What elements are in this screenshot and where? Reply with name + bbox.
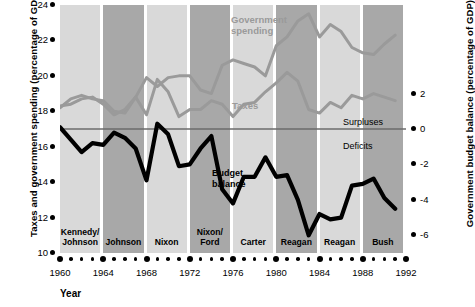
annotation-budget-balance: Budget balance — [212, 168, 246, 190]
x-tick-dot-1968 — [144, 256, 150, 262]
right-tick-neg4: -4 — [420, 194, 428, 205]
x-tick-dot-1977 — [242, 257, 246, 261]
x-tick-dot-1966 — [123, 257, 127, 261]
x-tick-dot-1972 — [187, 256, 193, 262]
left-tick-16: 16 — [22, 141, 48, 152]
x-tick-dot-1981 — [285, 257, 289, 261]
x-tick-dot-1985 — [329, 257, 333, 261]
right-tick-2: 2 — [420, 88, 425, 99]
x-tick-label-1976: 1976 — [216, 267, 250, 278]
x-tick-dot-1986 — [339, 257, 343, 261]
x-tick-dot-1969 — [156, 257, 160, 261]
x-tick-dot-1973 — [199, 257, 203, 261]
x-tick-dot-1990 — [383, 257, 387, 261]
left-tick-12: 12 — [22, 212, 48, 223]
x-tick-dot-1970 — [166, 257, 170, 261]
x-tick-dot-1963 — [91, 257, 95, 261]
x-tick-dot-1991 — [393, 257, 397, 261]
left-tick-18: 18 — [22, 105, 48, 116]
annotation-government-spending: Government spending — [231, 14, 287, 36]
x-tick-dot-1964 — [100, 256, 106, 262]
x-tick-dot-1960 — [57, 256, 63, 262]
x-tick-dot-1987 — [350, 257, 354, 261]
left-tick-22: 22 — [22, 34, 48, 45]
x-tick-dot-1974 — [210, 257, 214, 261]
x-tick-dot-1992 — [403, 256, 409, 262]
x-tick-dot-1961 — [69, 257, 73, 261]
x-tick-dot-1965 — [112, 257, 116, 261]
x-tick-dot-1988 — [360, 256, 366, 262]
series-line-government-spending — [60, 14, 395, 113]
x-tick-label-1992: 1992 — [389, 267, 423, 278]
x-tick-dot-1979 — [264, 257, 268, 261]
series-line-taxes — [60, 72, 395, 116]
x-tick-label-1964: 1964 — [86, 267, 120, 278]
x-tick-label-1968: 1968 — [130, 267, 164, 278]
x-tick-label-1988: 1988 — [346, 267, 380, 278]
x-tick-label-1980: 1980 — [259, 267, 293, 278]
right-axis-title: Government budget balance (percentage of… — [464, 0, 475, 239]
x-tick-dot-1971 — [177, 257, 181, 261]
x-tick-label-1960: 1960 — [43, 267, 77, 278]
left-tick-14: 14 — [22, 176, 48, 187]
annotation-deficits: Deficits — [343, 141, 373, 152]
left-tick-10: 10 — [22, 247, 48, 258]
x-tick-dot-1984 — [317, 256, 323, 262]
x-tick-dot-1976 — [230, 256, 236, 262]
annotation-surpluses: Surpluses — [343, 117, 383, 128]
x-tick-dot-1982 — [296, 257, 300, 261]
left-tick-24: 24 — [22, 0, 48, 10]
annotation-taxes: Taxes — [232, 100, 258, 111]
right-tick-neg6: -6 — [420, 229, 428, 240]
plot-area: Kennedy/JohnsonJohnsonNixonNixon/FordCar… — [60, 5, 406, 253]
right-tick-neg2: -2 — [420, 158, 428, 169]
left-tick-20: 20 — [22, 70, 48, 81]
x-tick-dot-1967 — [134, 257, 138, 261]
x-tick-dot-1975 — [220, 257, 224, 261]
x-tick-label-1984: 1984 — [303, 267, 337, 278]
x-tick-label-1972: 1972 — [173, 267, 207, 278]
x-tick-dot-1983 — [307, 257, 311, 261]
x-axis-title: Year — [60, 288, 81, 299]
right-tick-0: 0 — [420, 123, 425, 134]
x-tick-dot-1989 — [372, 257, 376, 261]
series-lines — [60, 5, 406, 253]
x-tick-dot-1962 — [80, 257, 84, 261]
x-tick-dot-1978 — [253, 257, 257, 261]
x-tick-dot-1980 — [273, 256, 279, 262]
